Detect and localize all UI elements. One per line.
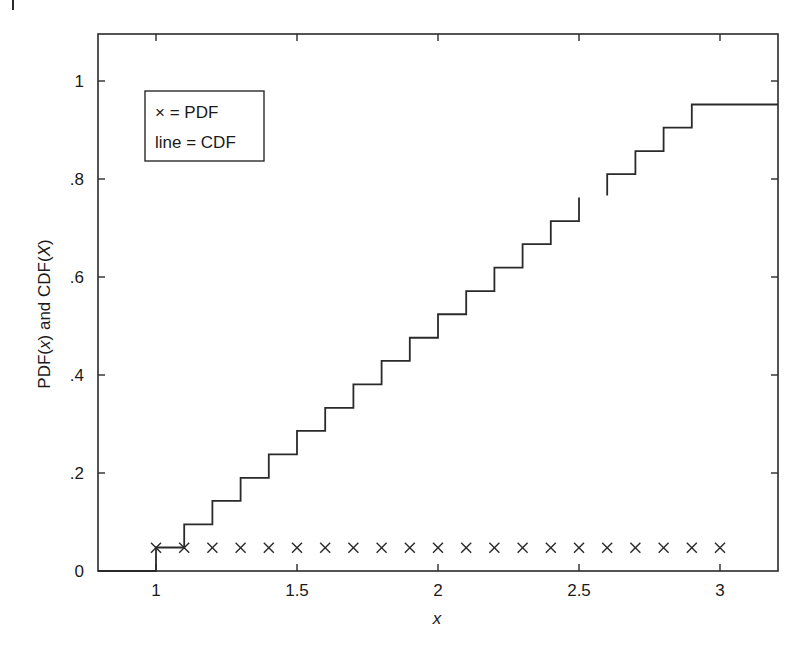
y-axis-label: PDF(x) and CDF(X) xyxy=(35,239,54,388)
pdf-marker-x-icon xyxy=(320,543,330,553)
cdf-path xyxy=(98,105,778,571)
cdf-step-line xyxy=(98,105,778,571)
pdf-marker-x-icon xyxy=(292,543,302,553)
legend-item-cdf: line = CDF xyxy=(155,133,236,152)
x-tick-label: 3 xyxy=(715,581,724,600)
y-tick-label: .8 xyxy=(70,170,84,189)
pdf-marker-x-icon xyxy=(630,543,640,553)
pdf-marker-x-icon xyxy=(433,543,443,553)
x-tick-label: 2 xyxy=(433,581,442,600)
pdf-marker-x-icon xyxy=(236,543,246,553)
x-tick-label: 1.5 xyxy=(285,581,309,600)
x-axis-label: x xyxy=(432,609,442,628)
pdf-markers xyxy=(151,543,725,553)
y-tick-label: 1 xyxy=(75,72,84,91)
legend-item-pdf: × = PDF xyxy=(155,103,218,122)
pdf-marker-x-icon xyxy=(489,543,499,553)
pdf-marker-x-icon xyxy=(518,543,528,553)
y-tick-label: .2 xyxy=(70,464,84,483)
pdf-marker-x-icon xyxy=(377,543,387,553)
pdf-marker-x-icon xyxy=(715,543,725,553)
y-tick-label: .6 xyxy=(70,268,84,287)
pdf-marker-x-icon xyxy=(574,543,584,553)
pdf-marker-x-icon xyxy=(602,543,612,553)
y-label-part-1: PDF( xyxy=(35,349,54,389)
x-tick-label: 2.5 xyxy=(567,581,591,600)
x-tick-label: 1 xyxy=(151,581,160,600)
pdf-marker-x-icon xyxy=(659,543,669,553)
pdf-marker-x-icon xyxy=(348,543,358,553)
cdf-pdf-chart: 11.522.53 0.2.4.6.81 x PDF(x) and CDF(X)… xyxy=(0,0,805,657)
pdf-marker-x-icon xyxy=(207,543,217,553)
legend: × = PDF line = CDF xyxy=(145,91,264,161)
pdf-marker-x-icon xyxy=(461,543,471,553)
pdf-marker-x-icon xyxy=(264,543,274,553)
pdf-marker-x-icon xyxy=(687,543,697,553)
pdf-marker-x-icon xyxy=(405,543,415,553)
y-tick-label: .4 xyxy=(70,366,84,385)
y-tick-label: 0 xyxy=(75,562,84,581)
pdf-marker-x-icon xyxy=(546,543,556,553)
